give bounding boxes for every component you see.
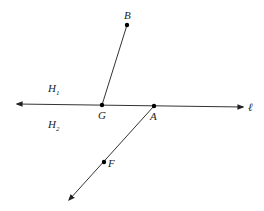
- label-H1: H1: [47, 82, 59, 97]
- segment-GB: [102, 25, 127, 105]
- line-l: [17, 104, 243, 107]
- label-B: B: [124, 9, 131, 21]
- point-F: [102, 160, 106, 164]
- point-A: [152, 104, 156, 108]
- label-F: F: [107, 157, 115, 169]
- label-H1-subscript: 1: [56, 89, 60, 97]
- label-H2: H2: [47, 118, 60, 133]
- point-G: [100, 103, 104, 107]
- label-line-l: ℓ: [248, 101, 253, 113]
- label-A: A: [149, 110, 157, 122]
- label-H2-subscript: 2: [56, 125, 60, 133]
- geometry-diagram: B G A F ℓ H1 H2: [0, 0, 264, 211]
- point-B: [125, 23, 129, 27]
- ray-AF: [69, 106, 154, 200]
- label-G: G: [98, 109, 106, 121]
